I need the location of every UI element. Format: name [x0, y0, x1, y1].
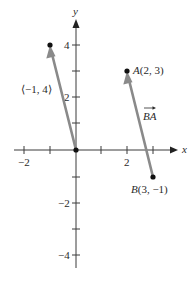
point-a-label: A(2, 3) [132, 64, 164, 77]
y-axis: y 4 2 −2 −4 [58, 5, 80, 268]
x-tick-label-2: 2 [124, 156, 130, 168]
vector-component-label: ⟨−1, 4⟩ [21, 83, 52, 95]
vector-ba-text: BA [143, 110, 157, 122]
y-tick-label-4: 4 [64, 39, 70, 51]
y-tick-label-neg4: −4 [58, 249, 70, 261]
point-neg1-4 [47, 42, 52, 47]
point-b-coords: (3, −1) [138, 183, 168, 196]
x-axis-arrow-icon [170, 147, 178, 154]
point-a-coords: (2, 3) [140, 64, 164, 77]
origin-point [73, 147, 78, 152]
x-tick-label-neg2: −2 [18, 156, 30, 168]
y-axis-label: y [72, 5, 78, 17]
point-b-label: B(3, −1) [131, 183, 168, 196]
x-axis: x −2 2 [14, 143, 187, 168]
vector-ba-label: BA [143, 106, 157, 122]
point-a [124, 68, 129, 73]
coordinate-plane: x −2 2 y 4 2 −2 −4 [0, 0, 196, 282]
x-axis-label: x [181, 143, 187, 155]
point-b [150, 174, 155, 179]
y-axis-arrow-icon [73, 19, 80, 28]
position-vector [46, 45, 76, 150]
y-tick-label-neg2: −2 [58, 197, 70, 209]
